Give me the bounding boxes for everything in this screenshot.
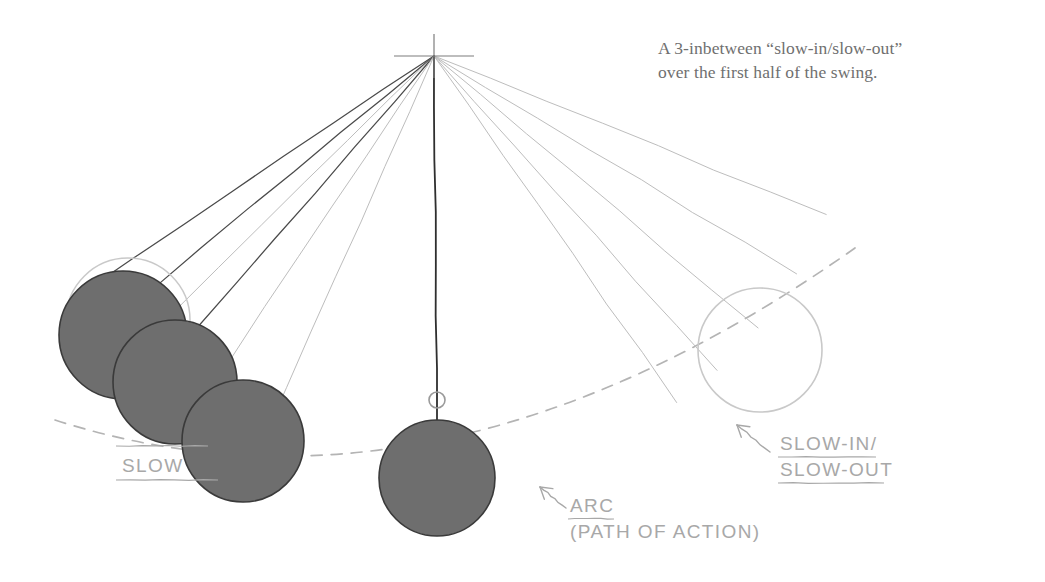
annotation-text-line-2: (PATH OF ACTION) <box>570 521 761 542</box>
annotation-arrow-line <box>737 425 770 452</box>
ball-bottom-center <box>379 420 495 536</box>
fan-line-right-2 <box>434 56 717 370</box>
fan-line-right-3 <box>434 56 758 328</box>
pendulum-diagram-canvas: ARC(PATH OF ACTION)SLOW-IN/SLOW-OUTSLOW … <box>0 0 1045 582</box>
pendulum-svg: ARC(PATH OF ACTION)SLOW-IN/SLOW-OUTSLOW <box>0 0 1045 582</box>
ball-inbetween-2 <box>182 380 304 502</box>
annotation-underline-bottom <box>116 480 218 481</box>
annotation-text-line-1: SLOW <box>122 455 184 476</box>
fan-line-left-5 <box>197 56 434 407</box>
pendulum-string <box>434 56 437 420</box>
annotation-text-line-1: SLOW-IN/ <box>780 433 877 454</box>
figure-caption: A 3-inbetween “slow-in/slow-out” over th… <box>658 36 1038 84</box>
annotation-slow-in-slow-out-label: SLOW-IN/SLOW-OUT <box>737 425 893 483</box>
ball-extreme-right-ghost <box>698 288 822 412</box>
annotation-underline-1 <box>778 457 876 458</box>
fan-line-right-4 <box>434 56 797 274</box>
fan-line-left-6 <box>262 56 434 442</box>
annotation-underline-2 <box>778 483 884 484</box>
pivot-crosshair-icon <box>394 34 474 78</box>
annotation-text-line-1: ARC <box>570 495 614 516</box>
annotation-arc-label: ARC(PATH OF ACTION) <box>540 487 761 542</box>
annotation-underline <box>568 518 614 519</box>
annotation-text-line-2: SLOW-OUT <box>780 459 893 480</box>
annotation-underline-top <box>116 445 208 446</box>
